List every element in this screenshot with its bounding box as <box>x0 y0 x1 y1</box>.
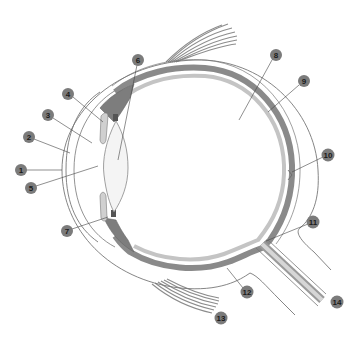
svg-text:7: 7 <box>65 227 70 236</box>
svg-text:11: 11 <box>309 218 318 227</box>
iris-bottom <box>100 192 107 221</box>
marker-4: 4 <box>62 88 74 100</box>
marker-11: 11 <box>307 216 320 229</box>
optic-nerve <box>256 240 326 306</box>
ciliary-body-bottom <box>104 218 134 252</box>
label-markers: 1 2 3 4 5 6 7 8 9 10 11 12 13 14 <box>15 49 344 325</box>
choroid <box>115 68 292 268</box>
sclera-outer-bottom <box>62 170 295 315</box>
marker-13: 13 <box>215 312 228 325</box>
marker-10: 10 <box>322 149 335 162</box>
iris-top <box>100 113 108 144</box>
marker-9: 9 <box>298 75 310 87</box>
marker-14: 14 <box>331 296 344 309</box>
marker-1: 1 <box>15 164 27 176</box>
marker-8: 8 <box>270 49 282 61</box>
marker-6: 6 <box>132 54 144 66</box>
svg-text:2: 2 <box>27 133 32 142</box>
cornea <box>66 92 100 170</box>
zonule-top <box>113 114 118 121</box>
superior-muscle <box>166 24 237 62</box>
marker-5: 5 <box>25 182 37 194</box>
retina <box>120 76 284 260</box>
svg-text:1: 1 <box>19 166 24 175</box>
lens <box>104 121 129 212</box>
svg-text:10: 10 <box>324 151 333 160</box>
marker-7: 7 <box>61 225 73 237</box>
svg-text:14: 14 <box>333 298 342 307</box>
svg-text:12: 12 <box>243 288 252 297</box>
inferior-muscle <box>152 279 219 313</box>
svg-text:8: 8 <box>274 51 279 60</box>
svg-text:6: 6 <box>136 56 141 65</box>
svg-text:3: 3 <box>46 111 51 120</box>
marker-2: 2 <box>23 131 35 143</box>
svg-text:9: 9 <box>302 77 307 86</box>
svg-text:13: 13 <box>217 314 226 323</box>
eye-cross-section-diagram: 1 2 3 4 5 6 7 8 9 10 11 12 13 14 <box>0 0 357 343</box>
svg-text:4: 4 <box>66 90 71 99</box>
marker-12: 12 <box>241 286 254 299</box>
marker-3: 3 <box>42 109 54 121</box>
svg-text:5: 5 <box>29 184 34 193</box>
